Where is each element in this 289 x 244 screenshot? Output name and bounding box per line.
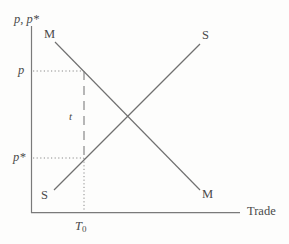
curve-label-m-top: M: [44, 28, 55, 41]
economics-trade-diagram: p, p* M S p t p* S M T0 Trade: [0, 0, 289, 244]
y-tick-label-p-star: p*: [13, 151, 26, 164]
curve-label-s-top: S: [202, 29, 209, 42]
y-axis-label: p, p*: [14, 10, 39, 26]
x-axis-label: Trade: [247, 205, 276, 218]
y-tick-label-p: p: [18, 64, 24, 77]
curve-label-s-bottom: S: [41, 189, 48, 202]
x-tick-label-t0-base: T: [75, 219, 82, 233]
tariff-wedge-label-t: t: [69, 111, 72, 122]
y-axis-label-p-star: p*: [27, 12, 40, 26]
curve-label-m-bottom: M: [202, 188, 213, 201]
x-tick-label-t0-sub: 0: [82, 224, 87, 234]
x-tick-label-t0: T0: [75, 217, 86, 234]
